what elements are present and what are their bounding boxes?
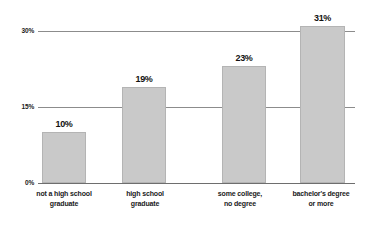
bar-value-label-1: 19% <box>122 74 166 84</box>
y-axis-tick-label-30: 30% <box>0 27 34 35</box>
bar-value-label-2: 23% <box>222 53 266 63</box>
y-axis-tick-label-0: 0% <box>0 179 34 187</box>
y-axis-tick-label-15: 15% <box>0 103 34 111</box>
category-label-line-2: or more <box>272 199 369 209</box>
bar-some-college-no-degree <box>222 66 266 183</box>
x-axis-baseline <box>38 183 355 184</box>
category-label-line-1: some college, <box>218 190 262 197</box>
category-label-line-2: graduate <box>100 199 190 209</box>
bar-not-a-high-school-graduate <box>42 132 86 183</box>
bar-high-school-graduate <box>122 87 166 183</box>
category-label-line-1: not a high school <box>36 190 91 197</box>
category-label-line-1: bachelor's degree <box>292 190 349 197</box>
plot-area: 30% 15% 0% 10% 19% 23% 31% not a high sc… <box>0 0 369 228</box>
bar-chart: 30% 15% 0% 10% 19% 23% 31% not a high sc… <box>0 0 369 228</box>
bar-value-label-0: 10% <box>42 119 86 129</box>
category-label-line-1: high school <box>126 190 164 197</box>
x-axis-category-label-1: high school graduate <box>100 189 190 208</box>
bar-bachelors-degree-or-more <box>300 26 345 183</box>
bar-value-label-3: 31% <box>300 13 345 23</box>
x-axis-category-label-3: bachelor's degree or more <box>272 189 369 208</box>
